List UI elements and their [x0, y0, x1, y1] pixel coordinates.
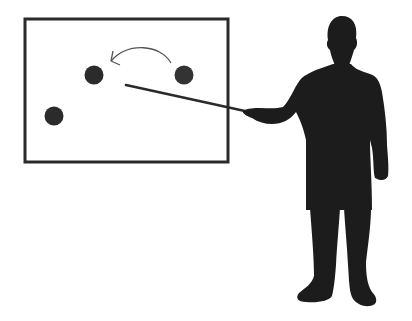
- dot-middle: [85, 66, 104, 85]
- presenter-illustration: [0, 0, 412, 321]
- torso: [243, 64, 389, 210]
- left-leg: [297, 208, 340, 302]
- head: [327, 16, 357, 66]
- dot-right: [175, 66, 194, 85]
- right-leg: [344, 208, 376, 306]
- board-frame: [25, 19, 228, 162]
- presenter-silhouette: [243, 16, 389, 306]
- dot-bottom-left: [45, 107, 64, 126]
